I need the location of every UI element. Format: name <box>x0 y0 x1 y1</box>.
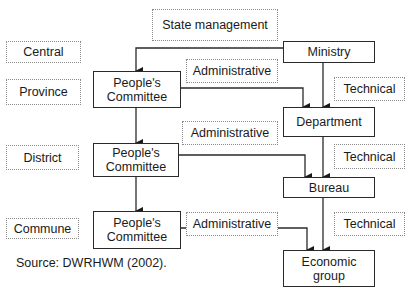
node-economic-group: Economic group <box>283 250 375 287</box>
label-technical-2: Technical <box>334 144 405 169</box>
level-province: Province <box>6 79 81 105</box>
node-ministry: Ministry <box>283 41 375 63</box>
level-commune: Commune <box>6 218 79 239</box>
level-district: District <box>6 145 79 170</box>
node-bureau: Bureau <box>283 177 375 198</box>
node-peoples-committee-commune: People's Committee <box>93 211 181 249</box>
label-technical-1: Technical <box>334 77 405 101</box>
label-administrative-3: Administrative <box>186 212 278 236</box>
source-caption: Source: DWRHWM (2002). <box>16 256 167 270</box>
label-administrative-1: Administrative <box>186 59 278 83</box>
node-peoples-committee-province: People's Committee <box>93 71 181 108</box>
label-technical-3: Technical <box>334 212 405 236</box>
label-administrative-2: Administrative <box>182 121 278 145</box>
level-central: Central <box>6 41 81 63</box>
state-management-header: State management <box>152 9 278 41</box>
node-peoples-committee-district: People's Committee <box>93 143 179 177</box>
node-department: Department <box>283 107 375 137</box>
